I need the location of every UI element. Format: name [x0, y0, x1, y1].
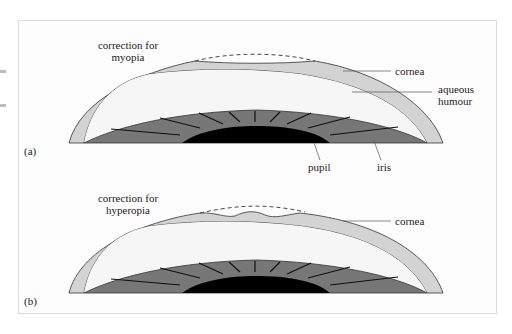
- title-line: myopia: [88, 51, 168, 63]
- panel-a-diagram: [69, 54, 443, 160]
- title-line: correction for: [88, 39, 168, 51]
- label-aqueous-humour: aqueous humour: [438, 83, 474, 107]
- panel-b-label: (b): [24, 295, 37, 307]
- label-cornea-a: cornea: [395, 65, 424, 77]
- panel-b-title: correction for hyperopia: [86, 192, 170, 216]
- title-line: correction for: [86, 192, 170, 204]
- label-line: aqueous: [438, 83, 474, 95]
- panel-a-title: correction for myopia: [88, 39, 168, 63]
- figure: correction for myopia cornea aqueous hum…: [0, 0, 512, 334]
- label-line: humour: [438, 95, 474, 107]
- panel-a-label: (a): [24, 145, 36, 157]
- panel-b-diagram: [69, 206, 443, 293]
- label-cornea-b: cornea: [395, 215, 424, 227]
- label-iris: iris: [377, 161, 391, 173]
- label-pupil: pupil: [308, 161, 331, 173]
- eye-diagrams: [0, 0, 512, 334]
- original-cornea-dashed-a: [195, 54, 315, 61]
- title-line: hyperopia: [86, 204, 170, 216]
